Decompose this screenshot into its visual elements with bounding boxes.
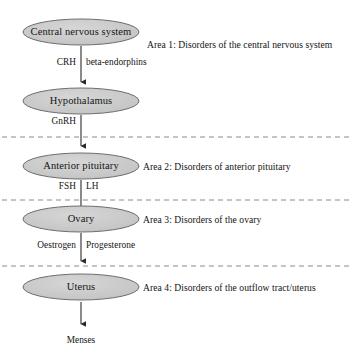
terminal-label-menses: Menses <box>23 336 139 345</box>
edge-label-gnrh: GnRH <box>0 117 76 126</box>
node-label-uterus: Uterus <box>23 282 139 293</box>
node-label-ovary: Ovary <box>23 214 139 225</box>
edge-label-lh: LH <box>86 182 99 191</box>
edge-label-crh: CRH <box>0 58 76 67</box>
area-label-2: Area 2: Disorders of anterior pituitary <box>143 162 291 172</box>
edge-label-beta-endorphins: beta-endorphins <box>86 58 147 67</box>
node-label-cns: Central nervous system <box>23 27 139 38</box>
node-label-anterior-pituitary: Anterior pituitary <box>23 161 139 172</box>
area-label-3: Area 3: Disorders of the ovary <box>143 215 261 225</box>
diagram-canvas <box>0 0 355 356</box>
edge-label-oestrogen: Oestrogen <box>0 241 76 250</box>
flow-diagram: Central nervous system Hypothalamus Ante… <box>0 0 355 356</box>
area-label-1: Area 1: Disorders of the central nervous… <box>147 40 332 50</box>
area-label-4: Area 4: Disorders of the outflow tract/u… <box>143 283 316 293</box>
edge-label-progesterone: Progesterone <box>86 241 135 250</box>
edge-label-fsh: FSH <box>0 182 76 191</box>
node-label-hypothalamus: Hypothalamus <box>23 96 139 107</box>
